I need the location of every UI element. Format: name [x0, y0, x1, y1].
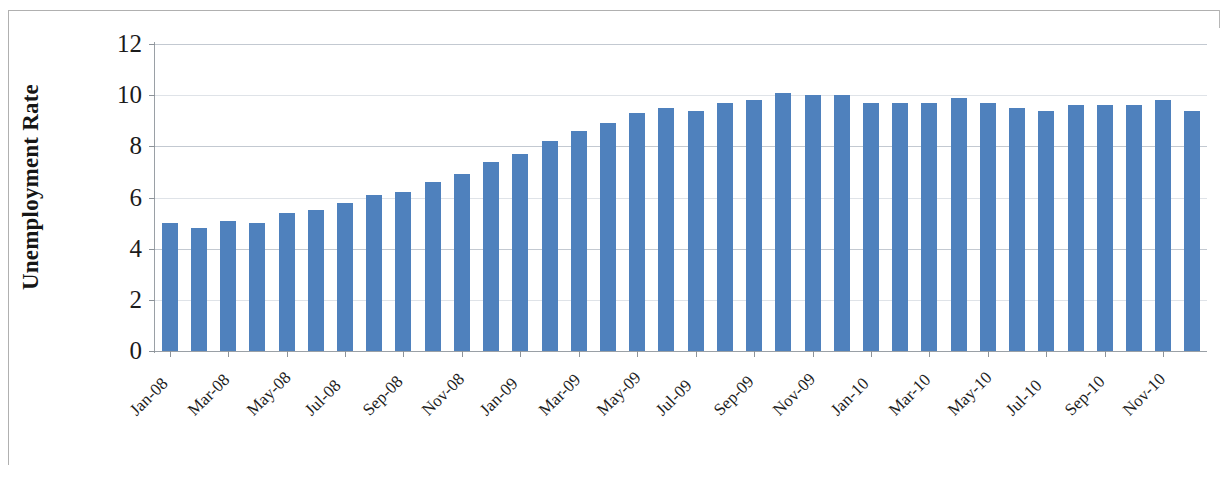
x-axis-tick-label: Sep-09: [710, 372, 758, 420]
x-axis-tick-label: Jul-10: [1002, 376, 1046, 420]
y-axis-tick: [149, 351, 155, 352]
x-axis-tick: [403, 351, 404, 357]
bar: [308, 210, 324, 351]
x-axis-tick: [1163, 351, 1164, 357]
bar: [834, 95, 850, 351]
bar: [1038, 111, 1054, 351]
y-axis-tick-label: 8: [96, 133, 142, 158]
bar: [921, 103, 937, 351]
x-axis-tick: [871, 351, 872, 357]
bar: [1097, 105, 1113, 351]
x-axis-tick-label: Mar-10: [885, 370, 935, 420]
bar: [337, 203, 353, 351]
bar: [717, 103, 733, 351]
y-axis-tick: [149, 300, 155, 301]
bar: [863, 103, 879, 351]
bar: [571, 131, 587, 351]
x-axis-tick-label: Jul-08: [301, 376, 345, 420]
bar: [658, 108, 674, 351]
x-axis-tick-label: Nov-10: [1119, 369, 1170, 420]
x-axis-tick: [462, 351, 463, 357]
y-axis-tick-label: 4: [96, 236, 142, 261]
bar: [629, 113, 645, 351]
x-axis-tick: [637, 351, 638, 357]
x-axis-tick-labels: Jan-08Mar-08May-08Jul-08Sep-08Nov-08Jan-…: [0, 362, 1226, 472]
x-axis-tick: [813, 351, 814, 357]
bar-series: [155, 44, 1207, 351]
y-axis-tick: [149, 198, 155, 199]
x-axis-tick: [1046, 351, 1047, 357]
bar: [454, 174, 470, 351]
bar: [805, 95, 821, 351]
x-axis-tick: [170, 351, 171, 357]
y-axis-tick-label: 2: [96, 287, 142, 312]
x-axis-tick-label: Jan-08: [126, 374, 172, 420]
x-axis-tick-label: Nov-08: [418, 369, 469, 420]
y-axis-title: Unemployment Rate: [14, 22, 48, 352]
bar: [220, 221, 236, 351]
bar: [688, 111, 704, 351]
bar: [600, 123, 616, 351]
bar: [366, 195, 382, 351]
bar: [1126, 105, 1142, 351]
bar: [249, 223, 265, 351]
x-axis-tick-label: Jul-09: [652, 376, 696, 420]
bar: [425, 182, 441, 351]
bar: [951, 98, 967, 351]
bar: [395, 192, 411, 351]
x-axis-tick-label: May-10: [944, 368, 996, 420]
y-axis-tick: [149, 146, 155, 147]
x-axis-tick-label: May-09: [593, 368, 645, 420]
x-axis-tick-label: Nov-09: [769, 369, 820, 420]
bar: [775, 93, 791, 351]
y-axis-tick: [149, 95, 155, 96]
x-axis-tick-label: Mar-08: [184, 370, 234, 420]
y-axis-tick-label: 10: [96, 82, 142, 107]
x-axis-tick: [345, 351, 346, 357]
x-axis-tick-label: May-08: [243, 368, 295, 420]
x-axis-tick-label: Sep-10: [1061, 372, 1109, 420]
bar: [892, 103, 908, 351]
bar: [483, 162, 499, 351]
y-axis-tick-label: 6: [96, 185, 142, 210]
chart-frame-right-edge: [1219, 10, 1220, 28]
bar: [162, 223, 178, 351]
bar: [1155, 100, 1171, 351]
bar: [746, 100, 762, 351]
bar: [1184, 111, 1200, 351]
x-axis-tick: [754, 351, 755, 357]
x-axis-tick-label: Mar-09: [535, 370, 585, 420]
x-axis-tick: [929, 351, 930, 357]
bar: [1068, 105, 1084, 351]
bar: [542, 141, 558, 351]
x-axis-tick-label: Sep-08: [359, 372, 407, 420]
y-axis-tick: [149, 44, 155, 45]
x-axis-tick-label: Jan-09: [476, 374, 522, 420]
x-axis-tick: [579, 351, 580, 357]
bar: [191, 228, 207, 351]
x-axis-line: [154, 351, 1207, 352]
y-axis-tick-label: 0: [96, 338, 142, 363]
x-axis-tick: [287, 351, 288, 357]
y-axis-title-text: Unemployment Rate: [18, 84, 44, 290]
x-axis-tick: [696, 351, 697, 357]
y-axis-tick-label: 12: [96, 31, 142, 56]
bar: [512, 154, 528, 351]
x-axis-tick: [988, 351, 989, 357]
bar: [279, 213, 295, 351]
x-axis-tick: [520, 351, 521, 357]
x-axis-tick: [228, 351, 229, 357]
y-axis-tick: [149, 249, 155, 250]
x-axis-tick-label: Jan-10: [827, 374, 873, 420]
bar: [1009, 108, 1025, 351]
x-axis-tick: [1105, 351, 1106, 357]
bar: [980, 103, 996, 351]
